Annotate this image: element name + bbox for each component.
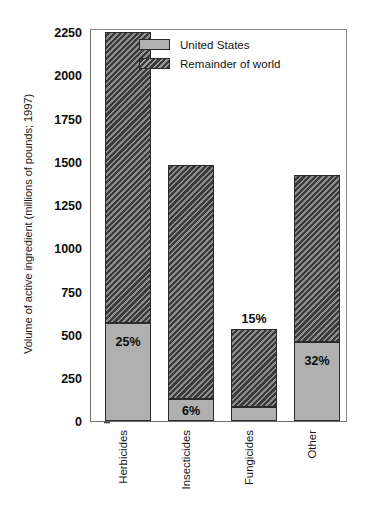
- bar-segment-world-herbicides: [105, 32, 151, 323]
- legend-swatch-remainder-of-world: [139, 58, 170, 69]
- bar-herbicides[interactable]: 25%: [105, 32, 151, 421]
- x-tick-label-insecticides: Insecticides: [180, 430, 192, 523]
- stacked-bar-chart: Volume of active ingredient (millions of…: [0, 0, 365, 523]
- y-tick-label-250: 250: [30, 372, 82, 386]
- plot-inner: 25% 6% 15% 32%: [91, 30, 346, 421]
- legend: United States Remainder of world: [139, 36, 281, 74]
- bar-segment-world-insecticides: [168, 165, 214, 399]
- y-tick-label-0: 0: [30, 415, 82, 429]
- y-axis-tick-labels: 2250 2000 1750 1500 1250 1000 750 500 25…: [20, 0, 82, 523]
- plot-area: 25% 6% 15% 32%: [90, 29, 347, 422]
- legend-item-united-states[interactable]: United States: [139, 36, 281, 53]
- y-tick-label-750: 750: [30, 286, 82, 300]
- bar-label-insecticides: 6%: [168, 404, 214, 418]
- y-tick-label-1750: 1750: [30, 113, 82, 127]
- bar-label-other: 32%: [294, 354, 340, 368]
- legend-label-remainder-of-world: Remainder of world: [180, 57, 281, 70]
- bar-segment-world-other: [294, 175, 340, 342]
- y-tick-label-500: 500: [30, 329, 82, 343]
- bar-fungicides[interactable]: 15%: [231, 329, 277, 421]
- y-tick-label-2000: 2000: [30, 69, 82, 83]
- bar-label-herbicides: 25%: [105, 335, 151, 349]
- x-tick-label-fungicides: Fungicides: [243, 430, 255, 523]
- bar-segment-world-fungicides: [231, 329, 277, 407]
- y-tick-label-2250: 2250: [30, 26, 82, 40]
- bar-segment-us-fungicides: [231, 407, 277, 421]
- legend-swatch-united-states: [139, 39, 170, 50]
- bar-insecticides[interactable]: 6%: [168, 165, 214, 421]
- x-tick-label-herbicides: Herbicides: [117, 430, 129, 523]
- y-tick-label-1500: 1500: [30, 156, 82, 170]
- y-tick-label-1250: 1250: [30, 199, 82, 213]
- bar-label-fungicides: 15%: [231, 312, 277, 326]
- y-tick-label-1000: 1000: [30, 242, 82, 256]
- x-tick-label-other: Other: [306, 430, 318, 523]
- legend-label-united-states: United States: [180, 38, 250, 51]
- legend-item-remainder-of-world[interactable]: Remainder of world: [139, 55, 281, 72]
- bar-other[interactable]: 32%: [294, 175, 340, 421]
